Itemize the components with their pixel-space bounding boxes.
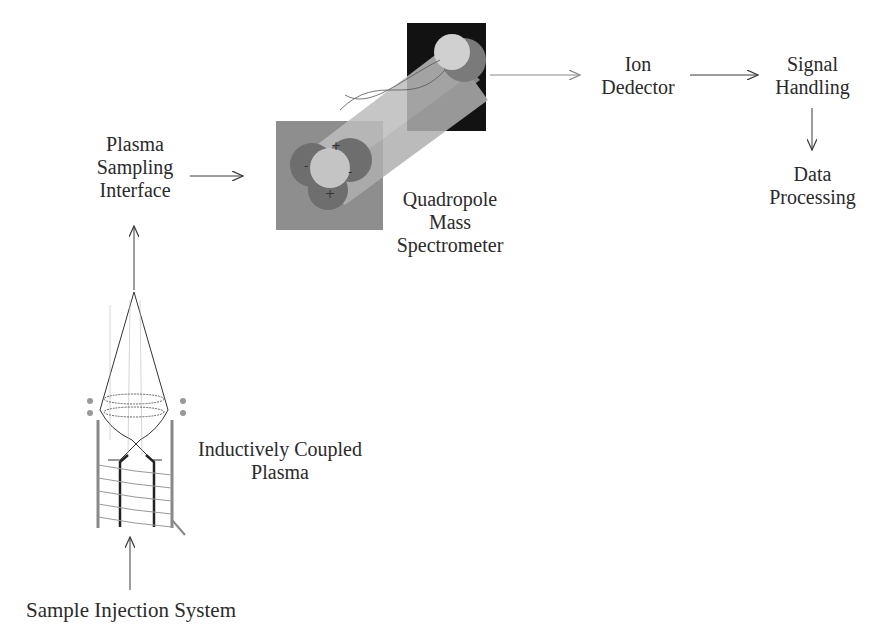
icp-torch-illustration	[87, 292, 186, 535]
label-line: Data	[755, 163, 870, 186]
svg-text:+: +	[331, 139, 341, 153]
svg-text:-: -	[348, 165, 352, 179]
arrows	[130, 75, 812, 590]
label-line: Processing	[755, 186, 870, 209]
label-ion-detector: Ion Dedector	[583, 53, 693, 99]
label-inductively-coupled-plasma: Inductively Coupled Plasma	[180, 438, 380, 484]
label-line: Quadropole	[375, 188, 525, 211]
svg-text:-: -	[304, 159, 308, 173]
label-line: Handling	[760, 76, 865, 99]
label-line: Dedector	[583, 76, 693, 99]
label-line: Signal	[760, 53, 865, 76]
label-line: Inductively Coupled	[180, 438, 380, 461]
label-line: Ion	[583, 53, 693, 76]
label-line: Spectrometer	[375, 234, 525, 257]
label-quadropole-mass-spectrometer: Quadropole Mass Spectrometer	[375, 188, 525, 257]
label-line: Plasma	[180, 461, 380, 484]
svg-text:+: +	[325, 187, 335, 201]
diagram-canvas: + + - -	[0, 0, 883, 629]
label-sample-injection-system: Sample Injection System	[0, 599, 262, 622]
label-line: Plasma	[70, 133, 200, 156]
label-signal-handling: Signal Handling	[760, 53, 865, 99]
label-line: Sampling	[70, 156, 200, 179]
label-line: Mass	[375, 211, 525, 234]
label-line: Sample Injection System	[0, 599, 262, 622]
label-line: Interface	[70, 179, 200, 202]
label-data-processing: Data Processing	[755, 163, 870, 209]
label-plasma-sampling-interface: Plasma Sampling Interface	[70, 133, 200, 202]
